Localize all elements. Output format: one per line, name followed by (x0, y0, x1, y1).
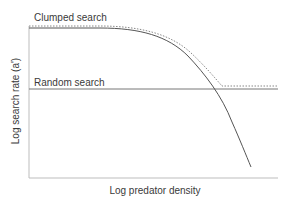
x-axis-label: Log predator density (109, 185, 200, 196)
random-search-label: Random search (34, 77, 105, 88)
y-axis-label: Log search rate (a') (10, 58, 21, 144)
clumped-search-curve (29, 28, 251, 167)
clumped-search-label: Clumped search (34, 12, 107, 23)
search-rate-diagram: Clumped search Random search Log predato… (0, 0, 296, 198)
